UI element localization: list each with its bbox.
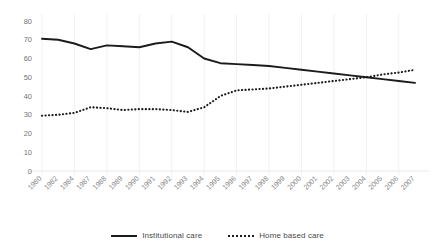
y-axis-tick-labels: 80706050403020100: [24, 17, 32, 176]
chart-canvas: 80706050403020100 1980198219841987198819…: [0, 0, 435, 248]
y-axis-tick-label: 60: [24, 54, 32, 63]
x-axis-tick-label: 1996: [220, 174, 238, 192]
x-axis-tick-label: 1988: [91, 174, 109, 192]
x-axis-tick-label: 1992: [155, 174, 173, 192]
x-axis-tick-label: 1994: [188, 174, 206, 192]
y-axis-tick-label: 40: [24, 92, 32, 101]
x-axis-tick-label: 1987: [74, 174, 92, 192]
y-axis-tick-label: 0: [28, 167, 32, 176]
line-chart: 80706050403020100 1980198219841987198819…: [0, 0, 435, 248]
x-axis-tick-label: 2006: [383, 174, 401, 192]
x-axis-tick-label: 2005: [366, 174, 384, 192]
y-axis-tick-label: 20: [24, 129, 32, 138]
x-axis-tick-label: 1980: [26, 174, 44, 192]
y-axis-tick-label: 30: [24, 110, 32, 119]
solid-line-swatch-icon: [111, 235, 137, 237]
x-axis-tick-labels: 1980198219841987198819891990199119921993…: [26, 174, 417, 192]
y-axis-tick-label: 70: [24, 35, 32, 44]
dotted-line-swatch-icon: [228, 235, 254, 237]
x-axis-tick-label: 1989: [107, 174, 125, 192]
x-axis-tick-label: 1999: [269, 174, 287, 192]
data-series-group: [42, 39, 415, 116]
chart-plot-area: 80706050403020100 1980198219841987198819…: [0, 0, 435, 248]
series-line-institutional-care: [42, 39, 415, 83]
gridlines: [30, 14, 429, 175]
x-axis-tick-label: 1991: [139, 174, 157, 192]
x-axis-tick-label: 1995: [204, 174, 222, 192]
legend-item-institutional-care[interactable]: Institutional care: [111, 231, 202, 240]
legend-label-home-based-care: Home based care: [259, 231, 324, 240]
x-axis-tick-label: 1984: [58, 174, 76, 192]
legend-item-home-based-care[interactable]: Home based care: [228, 231, 324, 240]
x-axis-tick-label: 2002: [318, 174, 336, 192]
x-axis-tick-label: 2003: [334, 174, 352, 192]
x-axis-tick-label: 1982: [42, 174, 60, 192]
chart-legend: Institutional care Home based care: [0, 231, 435, 240]
x-axis-tick-label: 1993: [172, 174, 190, 192]
legend-label-institutional-care: Institutional care: [142, 231, 202, 240]
x-axis-tick-label: 1998: [253, 174, 271, 192]
x-axis-tick-label: 1997: [237, 174, 255, 192]
y-axis-tick-label: 10: [24, 148, 32, 157]
x-axis-tick-label: 1990: [123, 174, 141, 192]
y-axis-tick-label: 80: [24, 17, 32, 26]
x-axis-tick-label: 2000: [285, 174, 303, 192]
x-axis-tick-label: 2004: [350, 174, 368, 192]
y-axis-tick-label: 50: [24, 73, 32, 82]
x-axis-tick-label: 2007: [399, 174, 417, 192]
x-axis-tick-label: 2001: [301, 174, 319, 192]
